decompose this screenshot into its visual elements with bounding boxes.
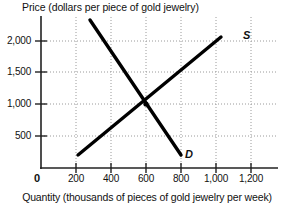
y-tick-label-1500: 1,500 (0, 66, 31, 77)
x-tick-label-0: 0 (34, 172, 40, 184)
x-tick-label-600: 600 (126, 173, 166, 184)
x-tick-label-200: 200 (56, 173, 96, 184)
x-tick-label-400: 400 (91, 173, 131, 184)
x-axis-title: Quantity (thousands of pieces of gold je… (0, 191, 294, 203)
y-tick-label-500: 500 (0, 130, 31, 141)
x-tick-label-1200: 1,200 (229, 173, 273, 184)
equilibrium-point (143, 101, 148, 106)
y-tick-label-1000: 1,000 (0, 98, 31, 109)
supply-curve-label: S (243, 29, 250, 41)
supply-curve (78, 37, 221, 155)
chart-figure: Price (dollars per piece of gold jewelry… (0, 0, 294, 209)
demand-curve-label: D (185, 148, 193, 160)
y-tick-label-2000: 2,000 (0, 35, 31, 46)
